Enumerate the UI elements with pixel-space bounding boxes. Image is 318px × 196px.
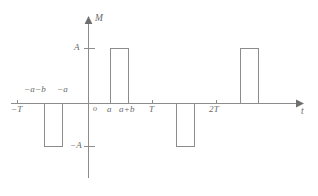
xtick-label-2T: 2T (209, 105, 219, 114)
xtick-label-T: T (149, 105, 154, 114)
waveform-plot-svg (0, 0, 318, 196)
xtick-label-neg-a: −a (57, 85, 68, 94)
origin-label: o (93, 105, 97, 113)
xtick-label-a: a (107, 105, 112, 114)
pulse-rect-2 (111, 49, 129, 104)
xtick-label-neg-T: −T (11, 105, 22, 114)
m-axis-label: M (95, 14, 103, 24)
pulse-rect-3 (177, 104, 195, 147)
up-arrow-icon (85, 16, 93, 24)
waveform-figure: M t o A −A −T −a−b −a a a+b T 2T (0, 0, 318, 196)
pulse-rect-1 (45, 104, 63, 147)
ytick-label-A: A (74, 43, 80, 52)
xtick-label-neg-a-minus-b: −a−b (24, 85, 46, 94)
ytick-label-neg-A: −A (70, 141, 82, 150)
t-axis-label: t (301, 107, 304, 117)
pulse-rect-4 (241, 49, 259, 104)
xtick-label-a-plus-b: a+b (119, 105, 135, 114)
